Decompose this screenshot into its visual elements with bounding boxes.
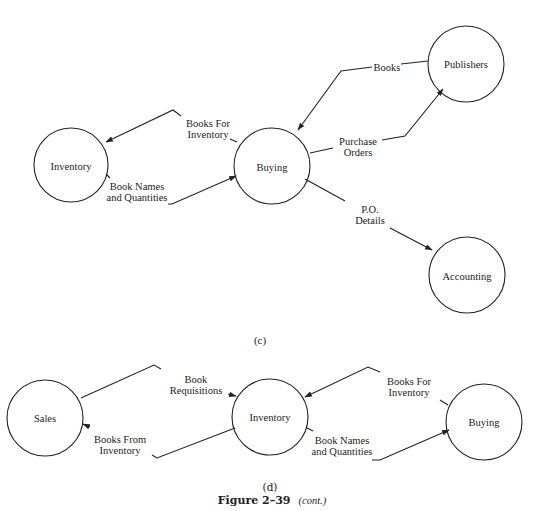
flow-books-for-inventory-d bbox=[440, 400, 448, 405]
flow-label-book-requisitions-d: Book Requisitions bbox=[166, 374, 226, 396]
node-label-sales-d: Sales bbox=[34, 413, 56, 424]
node-label-buying-c: Buying bbox=[257, 162, 288, 173]
flow-label-books-c: Books bbox=[372, 62, 402, 73]
flow-books-c bbox=[401, 61, 428, 64]
figure-caption: Figure 2–39(cont.) bbox=[218, 494, 326, 507]
flow-label-books-for-inventory-c: Books For Inventory bbox=[180, 118, 236, 140]
flow-book-requisitions-d bbox=[81, 365, 161, 398]
flow-label-po-details-c: P.O. Details bbox=[350, 204, 390, 226]
flow-books-from-inventory-d bbox=[152, 428, 235, 458]
node-label-inventory-c: Inventory bbox=[51, 161, 92, 172]
node-label-buying-d: Buying bbox=[469, 417, 500, 428]
node-label-publishers-c: Publishers bbox=[444, 59, 488, 70]
caption-d: (d) bbox=[263, 481, 278, 493]
figure-number: Figure 2–39 bbox=[218, 494, 291, 507]
flow-label-books-from-inventory-d: Books From Inventory bbox=[90, 434, 150, 456]
node-label-inventory-d: Inventory bbox=[250, 412, 291, 423]
flow-po-details-c bbox=[305, 179, 345, 201]
flow-book-names-d bbox=[307, 428, 313, 431]
flow-label-book-names-c: Book Names and Quantities bbox=[106, 181, 168, 203]
flow-purchase-orders-c bbox=[310, 148, 333, 153]
diagram-canvas bbox=[0, 0, 541, 511]
flow-label-book-names-d: Book Names and Quantities bbox=[310, 435, 374, 457]
caption-c: (c) bbox=[254, 334, 266, 346]
flow-label-books-for-inventory-d: Books For Inventory bbox=[380, 376, 438, 398]
figure-suffix: (cont.) bbox=[299, 495, 327, 506]
node-label-accounting-c: Accounting bbox=[443, 271, 492, 282]
flow-label-purchase-orders-c: Purchase Orders bbox=[335, 136, 381, 158]
